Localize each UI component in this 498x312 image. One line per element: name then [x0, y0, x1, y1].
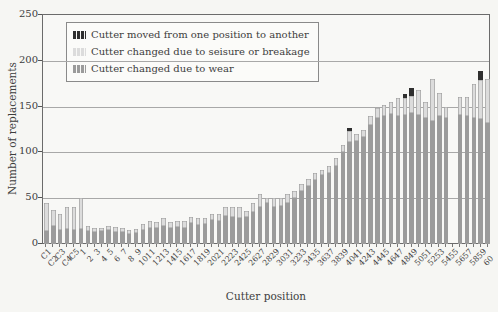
x-axis-tick [266, 244, 267, 247]
bar-segment-wear [230, 217, 235, 244]
bar-segment-seizure [99, 228, 104, 232]
bar-segment-wear [299, 191, 304, 244]
bar-segment-seizure [396, 98, 401, 115]
bar-segment-wear [375, 118, 380, 244]
x-axis-tick [487, 244, 488, 247]
bar-segment-wear [72, 230, 77, 244]
bar-segment-wear [251, 212, 256, 244]
y-tick-label: 50 [8, 191, 38, 203]
bar-segment-seizure [485, 79, 490, 123]
x-axis-tick [431, 244, 432, 247]
bar-segment-wear [347, 142, 352, 244]
bar-segment-seizure [375, 108, 380, 117]
bar-segment-moved [403, 94, 408, 99]
bar-segment-seizure [51, 210, 56, 226]
bar-segment-seizure [472, 84, 477, 118]
bar-segment-seizure [237, 207, 242, 218]
bar-segment-seizure [189, 217, 194, 222]
bar-segment-wear [106, 230, 111, 244]
bar-segment-seizure [299, 184, 304, 190]
bar-segment-wear [396, 116, 401, 244]
x-axis-tick [335, 244, 336, 247]
y-tick-label: 250 [8, 8, 38, 20]
bar-segment-wear [279, 206, 284, 244]
bar-segment-wear [272, 207, 277, 244]
bar-segment-seizure [458, 97, 463, 115]
x-axis-tick [425, 244, 426, 247]
bar-segment-seizure [79, 198, 84, 229]
x-axis-tick [280, 244, 281, 247]
bar-segment-wear [361, 137, 366, 244]
x-axis-tick [349, 244, 350, 247]
bar-segment-seizure [368, 116, 373, 125]
bar-segment-wear [51, 226, 56, 244]
x-axis-tick [156, 244, 157, 247]
gridline [43, 152, 489, 153]
bar-segment-seizure [106, 226, 111, 231]
bar-segment-seizure [203, 218, 208, 223]
bar-segment-wear [148, 228, 153, 244]
x-axis-tick [128, 244, 129, 247]
bar-segment-seizure [292, 191, 297, 198]
bar-segment-wear [368, 125, 373, 244]
bar-segment-wear [409, 113, 414, 244]
bar-segment-seizure [416, 90, 421, 115]
bar-segment-wear [161, 226, 166, 244]
bar-segment-wear [210, 220, 215, 244]
bar-segment-wear [127, 234, 132, 244]
bar-segment-wear [244, 217, 249, 244]
bar-segment-seizure [86, 226, 91, 231]
legend-row: Cutter moved from one position to anothe… [73, 26, 310, 43]
bar-segment-seizure [347, 131, 352, 142]
bar-segment-seizure [423, 102, 428, 118]
bar-segment-seizure [341, 145, 346, 152]
bar-segment-seizure [223, 207, 228, 215]
bar-segment-seizure [230, 207, 235, 216]
bar-segment-wear [168, 228, 173, 244]
x-axis-tick [211, 244, 212, 247]
x-axis-tick [183, 244, 184, 247]
x-axis-tick [142, 244, 143, 247]
bar-segment-wear [485, 123, 490, 244]
bar-segment-seizure [354, 134, 359, 141]
legend-swatch-icon [73, 65, 86, 73]
bar-segment-seizure [437, 93, 442, 116]
bar-segment-seizure [361, 130, 366, 136]
bar-segment-moved [478, 71, 483, 80]
bar-segment-seizure [334, 158, 339, 166]
bar-segment-wear [113, 232, 118, 244]
bar-segment-seizure [320, 170, 325, 175]
y-axis-tick [38, 106, 42, 107]
bar-segment-seizure [161, 218, 166, 225]
x-axis-tick [459, 244, 460, 247]
bar-segment-wear [134, 233, 139, 244]
bar-segment-seizure [258, 194, 263, 208]
x-axis-tick [232, 244, 233, 247]
bar-segment-wear [458, 115, 463, 244]
bar-segment-wear [437, 116, 442, 244]
bar-segment-wear [334, 166, 339, 244]
bar-segment-wear [217, 221, 222, 244]
bar-segment-wear [196, 225, 201, 244]
x-axis-title: Cutter position [42, 290, 490, 302]
bar-segment-seizure [389, 102, 394, 114]
bar-segment-moved [409, 88, 414, 95]
bar-segment-wear [120, 232, 125, 244]
bar-segment-wear [189, 223, 194, 244]
stacked-bar-chart: Number of replacements Cutter moved from… [0, 0, 498, 312]
bar-segment-seizure [217, 214, 222, 221]
bar-segment-seizure [279, 198, 284, 205]
bar-segment-wear [382, 116, 387, 244]
bar-segment-seizure [244, 211, 249, 216]
x-axis-tick [114, 244, 115, 247]
bar-segment-seizure [154, 222, 159, 228]
x-axis-tick [66, 244, 67, 247]
x-axis-tick [473, 244, 474, 247]
x-axis-tick [197, 244, 198, 247]
x-axis-tick [390, 244, 391, 247]
y-tick-label: 200 [8, 54, 38, 66]
x-axis-tick [252, 244, 253, 247]
bar-segment-seizure [44, 203, 49, 231]
bar-segment-wear [203, 224, 208, 244]
bar-segment-wear [306, 186, 311, 244]
